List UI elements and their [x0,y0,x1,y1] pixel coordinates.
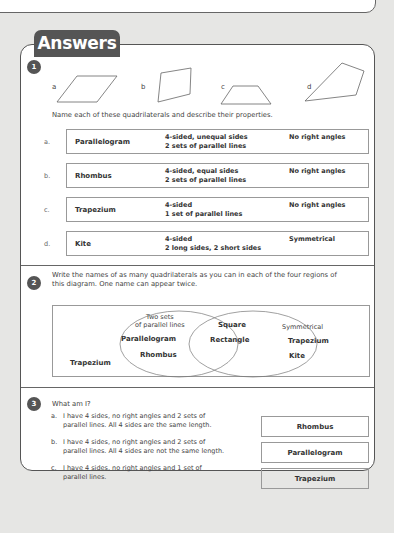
answer-box-c: Trapezium [261,468,369,489]
properties-line-2: 2 long sides, 2 short sides [165,244,261,253]
trapezium-shape-icon [221,85,271,105]
parallelogram-shape-icon [57,75,117,103]
shape-name: Rhombus [75,172,112,180]
answer-box-b: Parallelogram [261,442,369,463]
instruction-line-1: Write the names of as many quadrilateral… [52,271,337,280]
row-letter: d. [44,240,50,248]
section-divider [21,387,374,388]
properties-line-2: 2 sets of parallel lines [165,142,248,151]
question-2-instruction: Write the names of as many quadrilateral… [52,271,337,289]
answer-row-b: b. Rhombus 4-sided, equal sides 2 sets o… [66,163,369,188]
shape-name: Kite [75,240,91,248]
riddle-b: b. I have 4 sides, no right angles and 2… [51,438,251,456]
shape-extra-property: No right angles [289,167,345,175]
question-1-instruction: Name each of these quadrilaterals and de… [52,111,273,120]
answers-header-tab: Answers [34,30,120,57]
answer-box-a: Rhombus [261,416,369,437]
venn-middle-item: Square [218,321,246,329]
venn-right-label: Symmetrical [282,323,323,331]
venn-right-item: Kite [289,352,305,360]
left-label-line-2: of parallel lines [135,321,185,329]
venn-right-item: Trapezium [288,337,329,345]
row-letter: a. [44,138,50,146]
shape-extra-property: No right angles [289,133,345,141]
riddle-line-2: parallel lines. [63,473,251,482]
venn-left-label: Two sets of parallel lines [135,313,185,329]
question-1-badge: 1 [27,60,41,74]
riddle-letter: a. [51,412,57,421]
properties-line-1: 4-sided [165,235,261,244]
shape-name: Parallelogram [75,138,130,146]
venn-diagram: Two sets of parallel lines Parallelogram… [52,305,370,377]
properties-line-1: 4-sided [165,201,242,210]
shape-extra-property: No right angles [289,201,345,209]
answer-row-c: c. Trapezium 4-sided 1 set of parallel l… [66,197,369,222]
venn-left-item: Parallelogram [121,335,176,343]
venn-outside-item: Trapezium [70,359,111,367]
shape-name: Trapezium [75,206,116,214]
row-letter: b. [44,172,50,180]
section-divider [21,265,374,266]
question-2-badge: 2 [27,276,41,290]
riddle-letter: c. [51,464,57,473]
riddle-letter: b. [51,438,57,447]
shape-properties: 4-sided 1 set of parallel lines [165,201,242,219]
kite-shape-icon [304,62,366,102]
row-letter: c. [44,206,50,214]
properties-line-2: 2 sets of parallel lines [165,176,246,185]
riddle-line-2: parallel lines. All 4 sides are the same… [63,421,251,430]
question-3-title: What am I? [52,400,91,409]
properties-line-1: 4-sided, unequal sides [165,133,248,142]
venn-middle-item: Rectangle [210,336,250,344]
venn-left-item: Rhombus [140,351,177,359]
riddle-line-1: I have 4 sides, no right angles and 2 se… [63,438,251,447]
shape-properties: 4-sided, unequal sides 2 sets of paralle… [165,133,248,151]
riddle-a: a. I have 4 sides, no right angles and 2… [51,412,251,430]
riddle-line-1: I have 4 sides, no right angles and 2 se… [63,412,251,421]
properties-line-2: 1 set of parallel lines [165,210,242,219]
left-label-line-1: Two sets [135,313,185,321]
instruction-line-2: this diagram. One name can appear twice. [52,280,337,289]
shape-properties: 4-sided, equal sides 2 sets of parallel … [165,167,246,185]
answer-row-d: d. Kite 4-sided 2 long sides, 2 short si… [66,231,369,256]
properties-line-1: 4-sided, equal sides [165,167,246,176]
answers-panel: 1 a b c d Name each of these quadrilater… [20,44,375,471]
shape-extra-property: Symmetrical [289,235,335,243]
shape-label-b: b [141,83,145,91]
shape-label-a: a [52,83,56,91]
answer-row-a: a. Parallelogram 4-sided, unequal sides … [66,129,369,154]
riddle-line-2: parallel lines. All 4 sides are not the … [63,447,251,456]
rhombus-shape-icon [157,67,191,103]
riddle-c: c. I have 4 sides, no right angles and 1… [51,464,251,482]
question-3-badge: 3 [27,397,41,411]
previous-page-panel [0,0,376,13]
riddle-line-1: I have 4 sides, no right angles and 1 se… [63,464,251,473]
shape-properties: 4-sided 2 long sides, 2 short sides [165,235,261,253]
